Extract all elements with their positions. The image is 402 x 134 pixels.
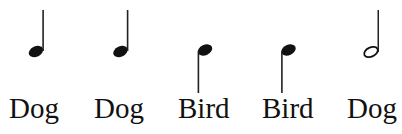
note-label: Bird xyxy=(178,92,230,124)
half-note-icon xyxy=(363,10,380,59)
note-label: Dog xyxy=(347,92,397,124)
quarter-note-stem-down-icon xyxy=(196,42,214,93)
quarter-note-icon xyxy=(27,10,45,59)
quarter-note-stem-down-icon xyxy=(279,42,297,93)
note-label: Bird xyxy=(262,92,314,124)
note-label: Dog xyxy=(9,92,59,124)
note-label: Dog xyxy=(94,92,144,124)
quarter-note-icon xyxy=(111,10,129,59)
note-sequence: Dog Dog Bird Bird Dog xyxy=(0,0,402,134)
